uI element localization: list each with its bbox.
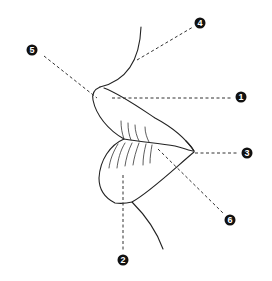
lip-drawing bbox=[0, 0, 272, 281]
philtrum-contour bbox=[100, 27, 141, 87]
chin-contour bbox=[132, 202, 163, 249]
upper-lip-crease bbox=[135, 125, 139, 141]
leader-line-4 bbox=[137, 27, 193, 60]
leader-line-5 bbox=[44, 56, 97, 98]
lower-lip-crease bbox=[109, 144, 118, 168]
marker-1: 1 bbox=[236, 92, 247, 103]
lower-lip-outline bbox=[99, 139, 194, 203]
lower-lip-crease bbox=[125, 143, 132, 166]
lower-lip-crease bbox=[150, 145, 152, 163]
marker-6: 6 bbox=[225, 215, 236, 226]
marker-5: 5 bbox=[27, 45, 38, 56]
marker-3: 3 bbox=[242, 148, 253, 159]
lower-lip-crease bbox=[133, 143, 139, 165]
upper-lip-outline bbox=[93, 87, 194, 151]
marker-2: 2 bbox=[118, 255, 129, 266]
leader-line-6 bbox=[158, 149, 223, 213]
lower-lip-crease bbox=[117, 143, 125, 168]
upper-lip-crease bbox=[128, 123, 131, 140]
upper-lip-crease bbox=[145, 127, 149, 142]
upper-lip-crease bbox=[121, 121, 124, 139]
lower-lip-crease bbox=[143, 144, 146, 165]
lip-diagram: 1 2 3 4 5 6 bbox=[0, 0, 272, 281]
marker-4: 4 bbox=[195, 18, 206, 29]
